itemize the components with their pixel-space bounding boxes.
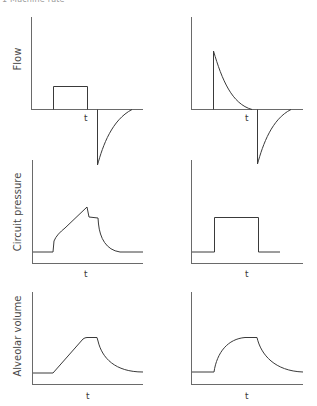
panel-flow-right: t	[191, 17, 303, 164]
panel-pressure-right: t	[191, 160, 303, 279]
x-label-t: t	[245, 269, 249, 279]
x-label-t: t	[245, 391, 249, 401]
volume-waveform-linear	[33, 338, 143, 374]
pressure-waveform-volume-control	[33, 207, 143, 252]
volume-waveform-exponential	[192, 338, 303, 373]
x-label-t: t	[84, 269, 88, 279]
pressure-waveform-pressure-control	[192, 218, 280, 253]
expiratory-flow-curve	[258, 110, 292, 165]
x-label-t: t	[84, 113, 88, 123]
row-label-flow: Flow	[12, 48, 23, 71]
expiratory-flow-curve	[98, 110, 133, 166]
x-label-t: t	[245, 113, 249, 123]
ventilation-waveform-figure: Flow Circuit pressure Alveolar volume t …	[0, 0, 317, 406]
row-label-circuit-pressure: Circuit pressure	[12, 173, 23, 252]
x-label-t: t	[86, 391, 90, 401]
panel-flow-left: t	[31, 17, 143, 165]
panel-volume-left: t	[32, 292, 143, 401]
inspiratory-flow-decelerating	[214, 51, 253, 110]
inspiratory-flow-square	[54, 87, 88, 110]
panel-volume-right: t	[191, 292, 303, 401]
panel-pressure-left: t	[32, 160, 143, 279]
row-label-alveolar-volume: Alveolar volume	[12, 295, 23, 376]
